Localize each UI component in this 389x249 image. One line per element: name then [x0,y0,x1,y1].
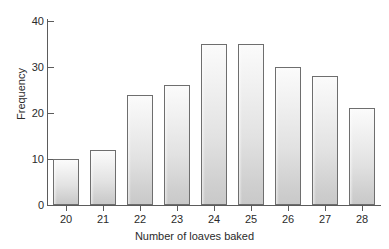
bar-series [48,21,382,205]
x-axis-tick-label: 23 [160,213,194,225]
bar [275,67,301,205]
x-axis-tick [288,206,289,211]
x-axis-tick-label: 27 [308,213,342,225]
bar [164,85,190,205]
y-axis-tick-label: 10 [18,154,44,165]
x-axis-tick [251,206,252,211]
x-axis-tick-label: 22 [123,213,157,225]
x-axis-tick [140,206,141,211]
y-axis-tick-label: 40 [18,16,44,27]
x-axis-tick-label: 28 [345,213,379,225]
x-axis-tick [362,206,363,211]
bar [312,76,338,205]
y-axis-title: Frequency [15,54,27,134]
y-axis-tick [48,205,54,206]
y-axis-tick-label: 0 [18,200,44,211]
x-axis-tick [177,206,178,211]
x-axis-tick-label: 20 [49,213,83,225]
x-axis-tick [325,206,326,211]
bar [53,159,79,205]
bar [201,44,227,205]
x-axis-tick [103,206,104,211]
x-axis-tick [66,206,67,211]
bar-chart-figure: 010203040 Frequency 202122232425262728 N… [0,0,389,249]
bar [90,150,116,205]
bar [238,44,264,205]
bar [349,108,375,205]
x-axis-title: Number of loaves baked [0,230,389,242]
x-axis-tick-label: 26 [271,213,305,225]
x-axis-tick-label: 24 [197,213,231,225]
bar [127,95,153,205]
x-axis-tick-label: 21 [86,213,120,225]
x-axis-tick [214,206,215,211]
x-axis-tick-label: 25 [234,213,268,225]
